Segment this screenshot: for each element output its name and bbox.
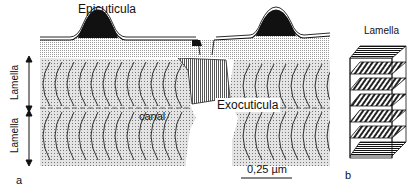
cuticle-diagram bbox=[0, 0, 420, 194]
lamella-arrows bbox=[26, 56, 32, 166]
lamella-stack-diagram bbox=[350, 46, 406, 158]
scale-bar-label: 0,25 µm bbox=[247, 164, 287, 175]
exocuticula-label: Exocuticula bbox=[215, 98, 280, 112]
exocuticula-region bbox=[40, 58, 334, 166]
lamella-label-lower: Lamella bbox=[9, 116, 20, 156]
lamella-label-upper: Lamella bbox=[9, 63, 20, 103]
canal-label: canal bbox=[139, 111, 165, 122]
panel-b-letter: b bbox=[345, 170, 351, 181]
panel-a-letter: a bbox=[16, 175, 22, 186]
panel-b-title: Lamella bbox=[364, 26, 399, 36]
epicuticula-label: Epicuticula bbox=[78, 3, 136, 15]
